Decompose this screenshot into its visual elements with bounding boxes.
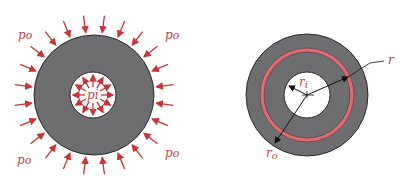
o-subscript: o	[272, 150, 278, 161]
o-subscript: o	[25, 154, 32, 167]
outer-pressure-arrow	[144, 46, 157, 56]
outer-pressure-arrow	[132, 32, 142, 45]
outer-pressure-arrow	[84, 157, 86, 174]
outer-pressure-arrow	[31, 46, 44, 56]
outer-pressure-arrow	[132, 145, 142, 158]
outer-pressure-label-top-left: po	[18, 28, 33, 42]
outer-pressure-arrow	[144, 133, 157, 143]
diagram-stage: po po po po pi ri ro r	[0, 0, 404, 187]
outer-pressure-arrow	[63, 153, 70, 169]
outer-pressure-arrow	[20, 64, 36, 71]
outer-pressure-arrow	[20, 119, 36, 126]
left-figure: po po po po pi	[15, 16, 180, 175]
outer-pressure-arrow	[102, 16, 104, 33]
o-subscript: o	[26, 29, 33, 42]
outer-pressure-arrow	[45, 145, 55, 158]
outer-pressure-arrow	[156, 103, 173, 105]
cylinder-diagram: po po po po pi ri ro r	[0, 0, 404, 187]
i-subscript: i	[305, 79, 308, 90]
outer-pressure-arrow	[84, 16, 86, 33]
outer-pressure-label-bottom-left: po	[17, 153, 32, 167]
radius-label: r	[388, 53, 395, 67]
outer-pressure-arrow	[45, 32, 55, 45]
outer-radius-label: ro	[266, 146, 278, 161]
outer-pressure-arrow	[152, 64, 168, 71]
outer-pressure-arrow	[156, 85, 173, 87]
outer-pressure-arrow	[15, 103, 32, 105]
o-subscript: o	[173, 29, 180, 42]
outer-pressure-label-top-right: po	[165, 28, 180, 42]
right-figure: ri ro r	[246, 34, 395, 161]
outer-pressure-arrow	[152, 119, 168, 126]
outer-pressure-label-bottom-right: po	[165, 146, 180, 160]
outer-pressure-arrow	[15, 85, 32, 87]
outer-pressure-arrow	[63, 21, 70, 37]
outer-pressure-arrow	[31, 133, 44, 143]
outer-pressure-arrow	[102, 157, 104, 174]
inner-pressure-label: pi	[87, 88, 99, 102]
outer-pressure-arrow	[118, 21, 125, 37]
outer-pressure-arrow	[118, 153, 125, 169]
o-subscript: o	[173, 147, 180, 160]
